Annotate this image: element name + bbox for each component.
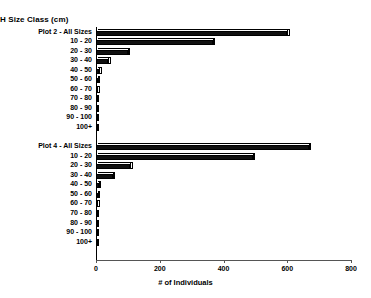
bar-front-face <box>96 40 213 45</box>
bar-row: Plot 2 - All Sizes <box>96 27 351 37</box>
bar <box>96 220 97 227</box>
bar <box>96 86 97 93</box>
bar <box>96 172 113 179</box>
bar-row-label: 40 - 50 <box>70 65 92 74</box>
bar-row-label: 50 - 60 <box>70 189 92 198</box>
bar-top-face <box>98 48 130 50</box>
bar-end-cap <box>99 181 102 188</box>
bar-end-cap <box>253 153 256 160</box>
bar-row-label: Plot 2 - All Sizes <box>38 27 92 36</box>
bar-end-cap <box>97 114 100 121</box>
bar-end-cap <box>108 57 111 64</box>
bar <box>96 29 287 36</box>
bar-row-label: 80 - 90 <box>70 218 92 227</box>
bar-row: 90 - 100 <box>96 113 351 123</box>
bar-row-label: 10 - 20 <box>70 151 92 160</box>
bar-row-label: 40 - 50 <box>70 179 92 188</box>
x-axis-tick-label: 600 <box>281 265 293 272</box>
bar-end-cap <box>130 162 133 169</box>
bar-row: 60 - 70 <box>96 199 351 209</box>
bar-row: 30 - 40 <box>96 56 351 66</box>
bar-top-face <box>98 38 215 40</box>
bar-row-label: 70 - 80 <box>70 93 92 102</box>
bar-end-cap <box>128 48 131 55</box>
bar <box>96 210 97 217</box>
x-axis-tick-label: 400 <box>218 265 230 272</box>
bar-row-label: 10 - 20 <box>70 36 92 45</box>
bar <box>96 153 253 160</box>
bar-row: 40 - 50 <box>96 65 351 75</box>
bar <box>96 143 309 150</box>
bar-top-face <box>98 162 132 164</box>
bar-end-cap <box>97 124 100 131</box>
bar <box>96 124 97 131</box>
bar-front-face <box>96 155 253 160</box>
x-axis-tick <box>224 260 225 263</box>
bar-row: 70 - 80 <box>96 94 351 104</box>
bar-front-face <box>96 59 108 64</box>
bar-row: Plot 4 - All Sizes <box>96 142 351 152</box>
bar-row-label: 60 - 70 <box>70 198 92 207</box>
x-axis-tick-label: 800 <box>345 265 357 272</box>
bar-row: 60 - 70 <box>96 84 351 94</box>
bar-end-cap <box>97 239 100 246</box>
bar-row-label: 80 - 90 <box>70 103 92 112</box>
x-axis-tick <box>160 260 161 263</box>
chart-title: H Size Class (cm) <box>0 15 68 24</box>
bar-end-cap <box>213 38 216 45</box>
bar-top-face <box>98 29 289 31</box>
bar-row: 80 - 90 <box>96 218 351 228</box>
bar-row: 90 - 100 <box>96 228 351 238</box>
bar-end-cap <box>97 210 100 217</box>
bar-row-label: 90 - 100 <box>66 112 92 121</box>
bar-row-label: 100+ <box>76 122 92 131</box>
bar-row: 80 - 90 <box>96 103 351 113</box>
bar-end-cap <box>97 229 100 236</box>
bar-end-cap <box>309 143 312 150</box>
bar-row-label: 50 - 60 <box>70 74 92 83</box>
bar <box>96 105 97 112</box>
bar-row-label: Plot 4 - All Sizes <box>38 141 92 150</box>
bar-row-label: 30 - 40 <box>70 170 92 179</box>
bar-row-label: 60 - 70 <box>70 84 92 93</box>
bar-row: 50 - 60 <box>96 75 351 85</box>
bar-end-cap <box>113 172 116 179</box>
bar-row-label: 90 - 100 <box>66 227 92 236</box>
bar-end-cap <box>98 191 101 198</box>
bar-end-cap <box>287 29 290 36</box>
x-axis-tick <box>96 260 97 263</box>
bar <box>96 76 98 83</box>
bar-row: 100+ <box>96 237 351 247</box>
bar-row: 100+ <box>96 123 351 133</box>
bar <box>96 57 108 64</box>
bar <box>96 200 97 207</box>
bar-chart: H Size Class (cm) Plot 2 - All Sizes10 -… <box>0 0 371 298</box>
x-axis-tick <box>351 260 352 263</box>
bar-end-cap <box>97 95 100 102</box>
bar-end-cap <box>97 86 100 93</box>
x-axis-tick-label: 0 <box>94 265 98 272</box>
bar-row: 40 - 50 <box>96 180 351 190</box>
bar-front-face <box>96 50 128 55</box>
bar-row-label: 100+ <box>76 237 92 246</box>
bar-row-label: 30 - 40 <box>70 55 92 64</box>
bar-top-face <box>98 143 311 145</box>
bar-row-label: 20 - 30 <box>70 46 92 55</box>
bar-row: 20 - 30 <box>96 161 351 171</box>
bar-row: 30 - 40 <box>96 170 351 180</box>
bar <box>96 229 97 236</box>
bar <box>96 95 97 102</box>
bar-end-cap <box>97 105 100 112</box>
bar-end-cap <box>97 220 100 227</box>
bar-front-face <box>96 31 287 36</box>
bar <box>96 191 98 198</box>
bar-front-face <box>96 145 309 150</box>
bar-row: 70 - 80 <box>96 208 351 218</box>
bar <box>96 239 97 246</box>
x-axis-title: # of Individuals <box>0 278 371 287</box>
bar-row: 20 - 30 <box>96 46 351 56</box>
bar-front-face <box>96 174 113 179</box>
bar <box>96 67 99 74</box>
plot-area: Plot 2 - All Sizes10 - 2020 - 3030 - 404… <box>96 27 351 260</box>
bar-top-face <box>98 153 255 155</box>
